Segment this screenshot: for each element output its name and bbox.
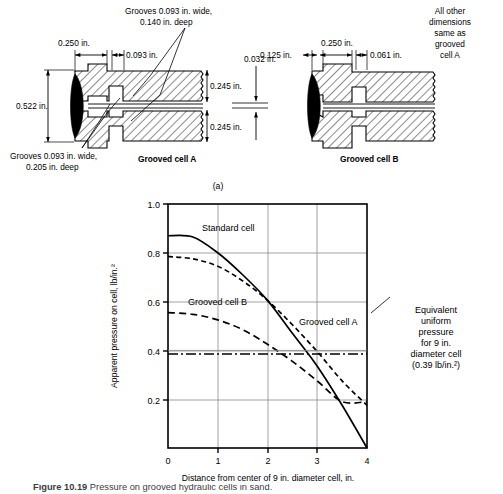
equiv-line-6: (0.39 lb/in.²) (412, 360, 460, 370)
equiv-line-3: pressure (418, 327, 453, 337)
dim-0522-label: 0.522 in. (16, 101, 48, 111)
xtick-2: 2 (265, 456, 270, 466)
dim-0061-b: 0.061 in. (356, 50, 402, 70)
dim-0125-b-label: 0.125 in. (260, 50, 292, 60)
series-grooved-cell-a (168, 256, 367, 405)
chart-annotation-equivalent-pressure: Equivalent uniform pressure for 9 in. di… (371, 297, 462, 370)
figure-svg: 0.250 in. 0.093 in. 0.522 in. 0.245 in. … (0, 0, 503, 494)
note-line-2: dimensions (429, 17, 471, 27)
part-label-a: (a) (213, 181, 224, 191)
diagram-b-title: Grooved cell B (340, 154, 399, 164)
callout-grooves-bottom-line2: 0.205 in. deep (26, 162, 79, 172)
callout-grooves-top-line2: 0.140 in. deep (140, 17, 193, 27)
cell-b-upper-body (312, 64, 435, 102)
ytick-0-4: 0.4 (147, 347, 160, 357)
dim-0250-b: 0.250 in. (320, 38, 353, 64)
callout-grooves-bottom-line1: Grooves 0.093 in. wide, (10, 151, 97, 161)
callout-grooves-top-line1: Grooves 0.093 in. wide, (125, 6, 212, 16)
note-line-5: cell A (440, 50, 460, 60)
ytick-1-0: 1.0 (147, 200, 160, 210)
chart-x-axis-label: Distance from center of 9 in. diameter c… (182, 473, 354, 483)
diagram-grooved-cell-a: 0.250 in. 0.093 in. 0.522 in. 0.245 in. … (10, 6, 276, 172)
ytick-0-2: 0.2 (147, 396, 160, 406)
diagram-grooved-cell-b: 0.125 in. 0.250 in. 0.061 in. All other … (260, 6, 471, 164)
series-standard-cell (168, 235, 367, 448)
chart-label-grooved-cell-b: Grooved cell B (188, 297, 247, 307)
xtick-4: 4 (364, 456, 369, 466)
caption-prefix: Figure 10.19 (33, 484, 87, 492)
xtick-1: 1 (215, 456, 220, 466)
figure-container: 0.250 in. 0.093 in. 0.522 in. 0.245 in. … (0, 0, 503, 494)
xtick-3: 3 (314, 456, 319, 466)
note-all-other-dimensions: All other dimensions same as grooved cel… (429, 6, 471, 60)
dim-0061-b-label: 0.061 in. (370, 50, 402, 60)
diagram-a-title: Grooved cell A (138, 154, 196, 164)
dim-0250-b-label: 0.250 in. (321, 38, 353, 48)
cell-b-lower-body (312, 111, 435, 148)
chart: 1.0 0.8 0.6 0.4 0.2 Apparent pressure on… (109, 200, 462, 483)
dim-0245-upper: 0.245 in. (207, 70, 242, 102)
caption-text: Pressure on grooved hydraulic cells in s… (90, 484, 272, 492)
dim-0250-a-label: 0.250 in. (58, 38, 90, 48)
ytick-0-8: 0.8 (147, 249, 160, 259)
equiv-line-2: uniform (421, 316, 451, 326)
xtick-0: 0 (165, 456, 170, 466)
equiv-line-1: Equivalent (415, 305, 458, 315)
dim-0522: 0.522 in. (16, 70, 74, 142)
dim-0093-a-label: 0.093 in. (126, 50, 158, 60)
chart-y-axis-label: Apparent pressure on cell, lb/in.² (109, 264, 119, 388)
chart-label-grooved-cell-a: Grooved cell A (299, 317, 358, 327)
equiv-line-4: for 9 in. (421, 338, 451, 348)
chart-x-axis: 0 1 2 3 4 Distance from center of 9 in. … (165, 448, 369, 483)
ytick-0-6: 0.6 (147, 298, 160, 308)
note-line-3: same as (434, 28, 465, 38)
equiv-line-5: diameter cell (410, 349, 461, 359)
dim-0245-lower-label: 0.245 in. (210, 122, 242, 132)
figure-caption-clipped: Figure 10.19 Pressure on grooved hydraul… (0, 484, 503, 494)
chart-y-axis: 1.0 0.8 0.6 0.4 0.2 Apparent pressure on… (109, 200, 168, 406)
dim-0245-lower: 0.245 in. (207, 110, 242, 142)
chart-label-standard-cell: Standard cell (202, 223, 255, 233)
note-line-4: grooved (435, 39, 465, 49)
dim-0245-upper-label: 0.245 in. (210, 81, 242, 91)
note-line-1: All other (435, 6, 466, 16)
